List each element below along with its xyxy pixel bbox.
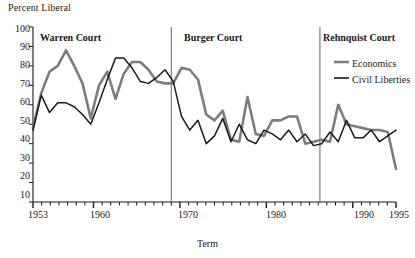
x-tick-label-1970: 1970 bbox=[168, 210, 208, 220]
series-line-economics bbox=[33, 50, 396, 169]
y-tick-label-40: 40 bbox=[8, 134, 30, 144]
y-tick-label-80: 80 bbox=[8, 60, 30, 70]
legend-swatches bbox=[334, 62, 349, 78]
era-divider-lines bbox=[33, 27, 320, 202]
y-tick-label-10: 10 bbox=[8, 190, 30, 200]
y-tick-label-30: 30 bbox=[8, 153, 30, 163]
x-tick-label-1960: 1960 bbox=[80, 210, 120, 220]
chart-container: Percent Liberal Term 100 90 80 70 60 50 … bbox=[0, 0, 415, 258]
annotation-burger-court: Burger Court bbox=[184, 32, 242, 43]
y-tick-label-100: 100 bbox=[8, 24, 30, 34]
annotation-rehnquist-court: Rehnquist Court bbox=[323, 32, 395, 43]
legend-label-economics: Economics bbox=[352, 58, 396, 69]
y-tick-label-60: 60 bbox=[8, 97, 30, 107]
y-tick-label-90: 90 bbox=[8, 42, 30, 52]
x-axis-ticks bbox=[33, 202, 396, 208]
x-tick-label-1953: 1953 bbox=[18, 210, 58, 220]
y-tick-label-70: 70 bbox=[8, 79, 30, 89]
x-tick-label-1995: 1995 bbox=[379, 210, 415, 220]
annotation-warren-court: Warren Court bbox=[40, 32, 101, 43]
data-series-lines bbox=[33, 50, 396, 169]
y-axis-title: Percent Liberal bbox=[8, 2, 71, 13]
x-tick-label-1980: 1980 bbox=[256, 210, 296, 220]
x-axis-title: Term bbox=[0, 238, 415, 249]
y-tick-label-20: 20 bbox=[8, 171, 30, 181]
y-tick-label-50: 50 bbox=[8, 116, 30, 126]
x-tick-label-1990: 1990 bbox=[344, 210, 384, 220]
legend-label-civil-liberties: Civil Liberties bbox=[352, 74, 410, 85]
